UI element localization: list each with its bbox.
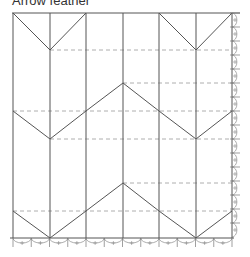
vertical-lines <box>10 13 240 238</box>
arrow-feather-pattern <box>0 0 250 257</box>
edge-arc-marks <box>13 13 240 247</box>
